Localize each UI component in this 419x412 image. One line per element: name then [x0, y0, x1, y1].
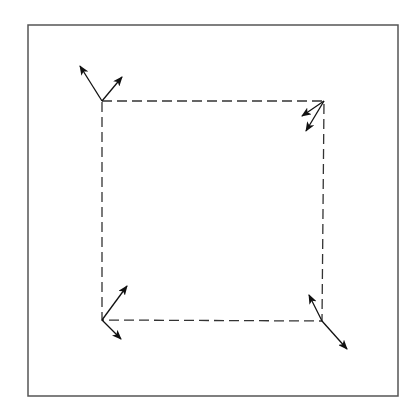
arrow-icon-bottom-right-1 — [309, 295, 322, 321]
arrow-icon-bottom-right-2 — [322, 321, 347, 349]
outer-frame — [28, 25, 398, 396]
arrow-icon-bottom-left-2 — [102, 320, 121, 339]
dashed-quadrilateral — [102, 101, 324, 321]
arrow-icon-bottom-left-1 — [102, 286, 127, 320]
diagram-canvas — [0, 0, 419, 412]
arrow-icon-top-left-1 — [80, 66, 102, 101]
arrow-icon-top-left-2 — [102, 77, 122, 101]
arrow-icon-top-right-2 — [306, 101, 324, 131]
arrow-icon-top-right-1 — [302, 101, 324, 116]
corner-vector-arrows — [80, 66, 347, 349]
